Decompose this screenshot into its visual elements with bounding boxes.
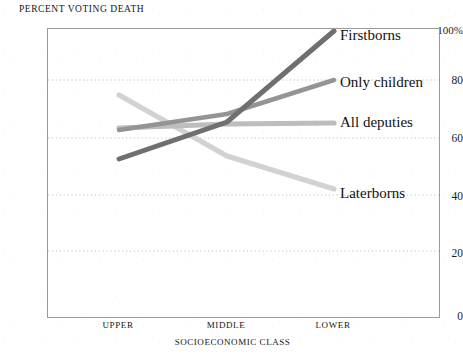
x-tick-lower: LOWER [316,320,351,330]
plot-area [47,28,440,318]
series-line-laterborns [119,95,334,189]
y-axis-title: PERCENT VOTING DEATH [19,4,144,14]
x-axis-title: SOCIOECONOMIC CLASS [0,337,463,347]
series-label-all-deputies: All deputies [340,114,413,131]
x-axis-title-text: SOCIOECONOMIC CLASS [175,337,291,347]
series-label-only-children: Only children [340,74,423,91]
x-tick-upper: UPPER [102,320,133,330]
chart-figure: PERCENT VOTING DEATH 100% 80 60 40 20 0 [0,0,463,358]
plot-svg [48,29,439,317]
series-label-laterborns: Laterborns [340,185,405,202]
series-line-firstborns [119,31,334,159]
x-tick-middle: MIDDLE [207,320,246,330]
series-label-firstborns: Firstborns [340,27,401,44]
